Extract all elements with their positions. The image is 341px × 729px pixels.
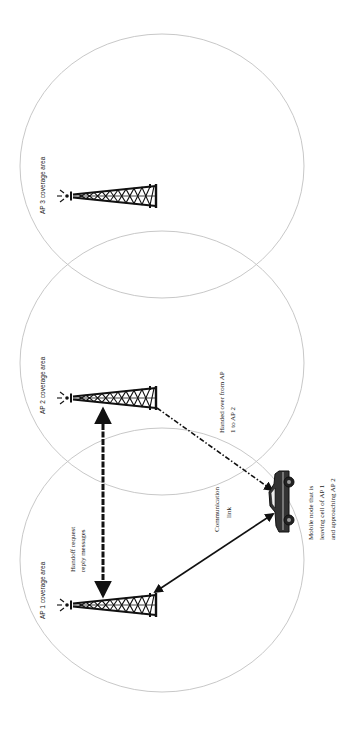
handover-label-line-2: 1 to AP 2: [229, 407, 237, 433]
ap1-tower-icon: [57, 593, 156, 617]
handoff-label-line-2: reply messages: [79, 529, 87, 572]
handover-link-arrow: [157, 408, 272, 490]
mobile-node-label-line-1: Mobile node that is: [307, 485, 315, 540]
ap2-coverage-area: [20, 231, 304, 495]
communication-label-line-2: link: [225, 507, 233, 518]
ap3-tower-icon: [57, 184, 156, 208]
handover-label-line-1: Handed over from AP: [218, 371, 226, 433]
ap2-coverage-label: AP 2 coverage area: [39, 356, 47, 414]
handoff-diagram: AP 3 coverage area AP 2 coverage area AP…: [0, 0, 341, 729]
ap1-coverage-area: [20, 428, 304, 692]
mobile-node-car-icon: [269, 471, 294, 532]
mobile-node-label-line-3: and approaching AP 2: [329, 478, 337, 540]
handoff-label-line-1: Handoff request: [69, 527, 77, 572]
ap3-coverage-area: [20, 34, 304, 298]
communication-label-line-1: Communication: [213, 486, 221, 532]
mobile-node-label-line-2: leaving cell of AP 1: [318, 484, 326, 540]
ap3-coverage-label: AP 3 coverage area: [39, 156, 47, 214]
ap1-coverage-label: AP 1 coverage area: [39, 561, 47, 619]
ap2-tower-icon: [57, 386, 156, 410]
